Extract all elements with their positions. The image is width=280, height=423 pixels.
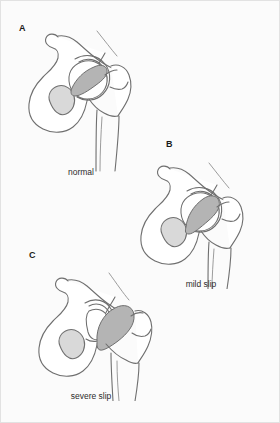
hip-joint-severe-slip-icon <box>11 261 171 401</box>
panel-c-caption: severe slip <box>11 391 171 401</box>
hip-slip-figure: A <box>0 0 280 423</box>
panel-b-letter: B <box>166 139 173 149</box>
panel-c: C severe slip <box>11 243 171 413</box>
panel-c-letter: C <box>29 250 36 260</box>
